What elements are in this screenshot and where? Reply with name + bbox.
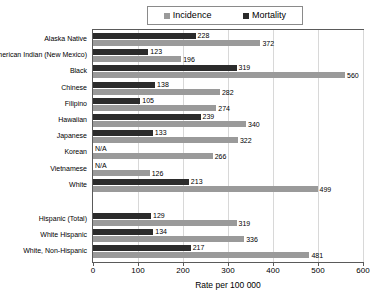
bar-value-incidence: 340 — [248, 121, 260, 128]
legend-entry-incidence: Incidence — [164, 11, 212, 20]
category-label: Alaska Native — [44, 35, 87, 43]
category-label: White Hispanic — [40, 231, 87, 239]
bar-row: 213499 — [93, 179, 363, 195]
bar-mortality — [93, 114, 201, 120]
bar-value-mortality: 138 — [157, 81, 169, 88]
bar-value-incidence: 322 — [240, 137, 252, 144]
bar-incidence — [93, 72, 345, 78]
bar-value-incidence: 499 — [320, 186, 332, 193]
bar-value-incidence: 282 — [222, 89, 234, 96]
bar-row: 228372 — [93, 33, 363, 49]
x-axis-title: Rate per 100 000 — [92, 281, 364, 290]
bar-incidence — [93, 252, 309, 258]
legend-entry-mortality: Mortality — [243, 11, 286, 20]
bar-incidence — [93, 40, 260, 46]
x-tick-label: 600 — [356, 267, 369, 275]
bar-value-incidence: 319 — [239, 220, 251, 227]
bar-value-incidence: 196 — [183, 56, 195, 63]
bar-value-mortality: 213 — [191, 178, 203, 185]
bar-mortality — [93, 245, 191, 251]
bar-value-incidence: 560 — [347, 72, 359, 79]
category-label: Japanese — [57, 132, 87, 140]
category-label: Chinese — [61, 84, 87, 92]
category-label: Vietnamese — [50, 165, 87, 173]
category-axis-labels: Alaska NativeAmerican Indian (New Mexico… — [0, 29, 90, 263]
bar-incidence — [93, 89, 220, 95]
bar-rows: 2283721231963195601382821052742393401333… — [93, 30, 363, 262]
bar-value-mortality: N/A — [95, 145, 107, 152]
category-label: White — [69, 181, 87, 189]
bar-row: 217481 — [93, 245, 363, 261]
bar-value-mortality: 319 — [239, 64, 251, 71]
legend-swatch-icon — [243, 13, 249, 19]
bar-incidence — [93, 56, 181, 62]
chart-legend: IncidenceMortality — [147, 6, 303, 25]
x-tick-label: 500 — [311, 267, 324, 275]
legend-label: Mortality — [252, 11, 286, 20]
bar-value-mortality: 105 — [142, 97, 154, 104]
gridline — [363, 30, 364, 262]
x-tick-label: 200 — [176, 267, 189, 275]
bar-incidence — [93, 137, 238, 143]
x-tick-label: 400 — [266, 267, 279, 275]
bar-value-incidence: 126 — [152, 170, 164, 177]
category-label: Korean — [64, 148, 87, 156]
legend-label: Incidence — [173, 11, 212, 20]
bar-value-incidence: 274 — [218, 105, 230, 112]
bar-row: 239340 — [93, 114, 363, 130]
x-tick-label: 100 — [131, 267, 144, 275]
bar-mortality — [93, 33, 196, 39]
category-label: Hispanic (Total) — [39, 215, 87, 223]
bar-mortality — [93, 98, 140, 104]
bar-value-mortality: 217 — [193, 244, 205, 251]
bar-mortality — [93, 49, 148, 55]
bar-value-mortality: 133 — [155, 129, 167, 136]
category-label: Hawaiian — [58, 116, 87, 124]
bar-row: 105274 — [93, 98, 363, 114]
bar-value-incidence: 481 — [311, 252, 323, 259]
bar-row: 133322 — [93, 130, 363, 146]
bar-row: 134336 — [93, 229, 363, 245]
x-tick-label: 300 — [221, 267, 234, 275]
bar-row: 129319 — [93, 213, 363, 229]
bar-mortality — [93, 130, 153, 136]
category-label: Black — [70, 67, 87, 75]
x-tick-label: 0 — [91, 267, 95, 275]
bar-value-mortality: 228 — [198, 32, 210, 39]
bar-incidence — [93, 170, 150, 176]
bar-value-incidence: 336 — [246, 236, 258, 243]
bar-incidence — [93, 236, 244, 242]
bar-row: N/A126 — [93, 163, 363, 179]
legend-swatch-icon — [164, 13, 170, 19]
category-label: Filipino — [65, 100, 87, 108]
bar-mortality — [93, 179, 189, 185]
x-axis: 0100200300400500600 — [92, 263, 364, 279]
bar-incidence — [93, 105, 216, 111]
category-label: White, Non-Hispanic — [23, 247, 87, 255]
bar-incidence — [93, 186, 318, 192]
bar-value-mortality: 134 — [155, 228, 167, 235]
bar-row: N/A266 — [93, 146, 363, 162]
plot-area: 2283721231963195601382821052742393401333… — [92, 29, 364, 263]
bar-value-mortality: 123 — [150, 48, 162, 55]
bar-row: 138282 — [93, 82, 363, 98]
bar-value-mortality: 239 — [203, 113, 215, 120]
category-label: American Indian (New Mexico) — [0, 51, 87, 59]
bar-mortality — [93, 82, 155, 88]
bar-value-incidence: 266 — [215, 153, 227, 160]
bar-row: 319560 — [93, 65, 363, 81]
bar-value-incidence: 372 — [262, 40, 274, 47]
bar-incidence — [93, 153, 213, 159]
bar-value-mortality: N/A — [95, 162, 107, 169]
bar-incidence — [93, 220, 237, 226]
bar-incidence — [93, 121, 246, 127]
bar-mortality — [93, 229, 153, 235]
bar-mortality — [93, 213, 151, 219]
bar-value-mortality: 129 — [153, 212, 165, 219]
bar-mortality — [93, 65, 237, 71]
bar-row: 123196 — [93, 49, 363, 65]
